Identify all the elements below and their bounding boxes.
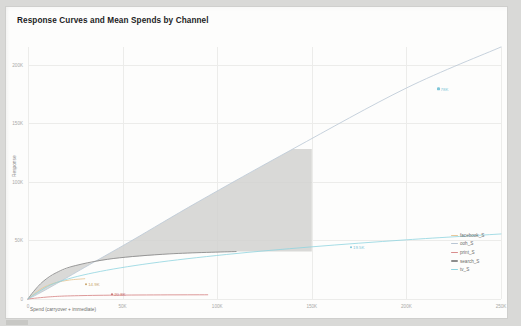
legend-item-search_S[interactable]: search_S [450, 257, 506, 266]
legend-label: tv_S [460, 267, 469, 272]
y-axis-tick-label: 50K [15, 238, 23, 243]
x-axis-tick-label: 150K [306, 304, 317, 309]
annotation-14.9K: 14.9K [85, 281, 100, 286]
legend-swatch-icon [450, 243, 459, 244]
y-axis-tick-label: 150K [12, 121, 23, 126]
annotation-label: 19.5K [353, 245, 364, 250]
gridline-horizontal [28, 299, 501, 300]
legend-swatch-icon [450, 269, 459, 270]
y-axis-tick-label: 100K [12, 179, 23, 184]
x-axis-tick-label: 200K [401, 304, 412, 309]
y-axis-tick-label: 200K [12, 62, 23, 67]
annotation-label: 20.8K [114, 292, 125, 297]
uncertainty-band-shape [28, 149, 312, 299]
legend-item-ooh_S[interactable]: ooh_S [450, 240, 506, 249]
y-axis-label: Response [12, 155, 17, 177]
annotation-19.5K: 19.5K [350, 245, 365, 250]
chart-canvas [28, 47, 501, 299]
y-axis-tick-label: 0 [20, 297, 23, 302]
scan-artifact [6, 320, 28, 325]
legend-label: print_S [460, 250, 475, 255]
legend-item-tv_S[interactable]: tv_S [450, 265, 506, 274]
annotation-label: 78K [441, 86, 449, 91]
annotation-label: 14.9K [88, 282, 99, 287]
uncertainty-band [28, 149, 312, 299]
x-axis-tick-label: 0 [27, 304, 30, 309]
legend-label: facebook_S [460, 233, 484, 238]
x-axis-tick-label: 100K [212, 304, 223, 309]
x-axis-tick-label: 250K [496, 304, 507, 309]
page-title: Response Curves and Mean Spends by Chann… [17, 16, 209, 25]
legend-label: ooh_S [460, 241, 473, 246]
annotation-20.8K: 20.8K [111, 291, 126, 296]
legend-item-facebook_S[interactable]: facebook_S [450, 231, 506, 240]
chart-card: Response Curves and Mean Spends by Chann… [6, 7, 507, 318]
legend-swatch-icon [450, 235, 459, 236]
legend-swatch-icon [450, 260, 459, 261]
legend-label: search_S [460, 259, 479, 264]
plot-area: 050K100K150K200K 050K100K150K200K250K 14… [28, 47, 501, 299]
x-axis-label: Spend (carryover + immediate) [30, 307, 96, 312]
chart-legend: facebook_Sooh_Sprint_Ssearch_Stv_S [450, 231, 506, 274]
screenshot-page: Response Curves and Mean Spends by Chann… [0, 0, 521, 326]
legend-swatch-icon [450, 252, 459, 253]
annotation-78K: 78K [437, 86, 448, 91]
x-axis-tick-label: 50K [119, 304, 127, 309]
legend-item-print_S[interactable]: print_S [450, 248, 506, 257]
